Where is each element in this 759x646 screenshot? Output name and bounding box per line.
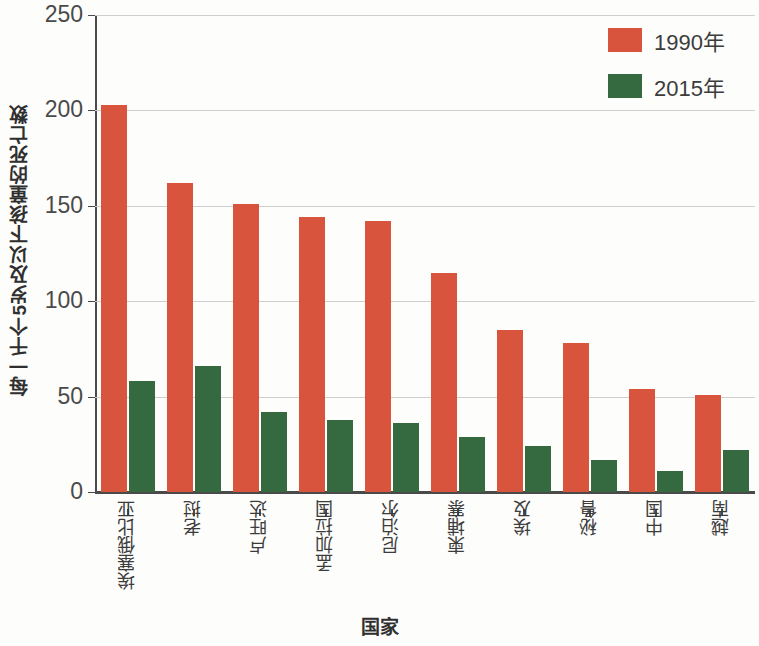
bar: [431, 273, 457, 492]
x-axis-label-text: 尼泊尔: [379, 500, 405, 554]
x-axis-label: 孟加拉国: [296, 500, 356, 572]
bar-group: [98, 15, 158, 492]
y-tick-mark: [88, 301, 95, 302]
y-axis-tick: 0: [95, 492, 755, 493]
legend-label: 2015年: [654, 70, 725, 102]
y-tick-label: 200: [23, 96, 83, 123]
y-tick-mark: [88, 492, 95, 493]
y-tick-label: 100: [23, 287, 83, 314]
bar: [459, 437, 485, 492]
bar-group: [362, 15, 422, 492]
bar: [261, 412, 287, 492]
y-tick-label: 250: [23, 1, 83, 28]
bar-group: [230, 15, 290, 492]
x-axis-label-text: 中国: [643, 500, 669, 536]
x-axis-label-text: 越南: [709, 500, 735, 536]
bar: [167, 183, 193, 492]
x-axis-label: 越南: [692, 500, 752, 536]
x-axis-label: 秘鲁: [560, 500, 620, 536]
legend-item: 1990年: [608, 24, 758, 56]
x-axis-label: 柬埔寨: [428, 500, 488, 554]
x-axis-label: 埃及: [494, 500, 554, 536]
y-tick-label: 50: [23, 383, 83, 410]
bar-group: [494, 15, 554, 492]
bar: [393, 423, 419, 492]
x-axis-labels: 埃塞俄比亚老挝卢旺达孟加拉国尼泊尔柬埔寨埃及秘鲁中国越南: [95, 500, 755, 605]
bar: [129, 381, 155, 492]
bar: [101, 105, 127, 492]
x-axis-label-text: 柬埔寨: [445, 500, 471, 554]
y-axis-title: 每一千个5岁及以下孩童的死亡数: [2, 0, 36, 500]
x-axis-label-text: 秘鲁: [577, 500, 603, 536]
bar: [299, 217, 325, 492]
bar: [365, 221, 391, 492]
bar: [497, 330, 523, 492]
bar-group: [428, 15, 488, 492]
chart-legend: 1990年2015年: [608, 24, 758, 116]
x-axis-label: 尼泊尔: [362, 500, 422, 554]
bar: [695, 395, 721, 492]
legend-swatch: [608, 28, 642, 52]
y-axis-title-text: 每一千个5岁及以下孩童的死亡数: [6, 104, 33, 396]
bar: [657, 471, 683, 492]
bar: [195, 366, 221, 492]
bar: [723, 450, 749, 492]
x-axis-label-text: 埃塞俄比亚: [115, 500, 141, 590]
bar: [591, 460, 617, 492]
bar: [327, 420, 353, 493]
bar-group: [164, 15, 224, 492]
legend-item: 2015年: [608, 70, 758, 102]
legend-swatch: [608, 74, 642, 98]
x-axis-label-text: 老挝: [181, 500, 207, 536]
bar: [233, 204, 259, 492]
bar-group: [296, 15, 356, 492]
bar: [525, 446, 551, 492]
x-axis-label: 卢旺达: [230, 500, 290, 554]
y-tick-mark: [88, 15, 95, 16]
y-tick-label: 150: [23, 192, 83, 219]
bar: [563, 343, 589, 492]
y-tick-mark: [88, 110, 95, 111]
bar: [629, 389, 655, 492]
x-axis-label-text: 卢旺达: [247, 500, 273, 554]
bar-chart: 每一千个5岁及以下孩童的死亡数 050100150200250 埃塞俄比亚老挝卢…: [0, 0, 759, 646]
x-axis-title: 国家: [0, 612, 759, 639]
legend-label: 1990年: [654, 24, 725, 56]
x-axis-label-text: 孟加拉国: [313, 500, 339, 572]
x-axis-label-text: 埃及: [511, 500, 537, 536]
x-axis-label: 中国: [626, 500, 686, 536]
x-axis-label: 埃塞俄比亚: [98, 500, 158, 590]
y-tick-mark: [88, 397, 95, 398]
y-tick-mark: [88, 206, 95, 207]
x-axis-label: 老挝: [164, 500, 224, 536]
y-tick-label: 0: [23, 478, 83, 505]
